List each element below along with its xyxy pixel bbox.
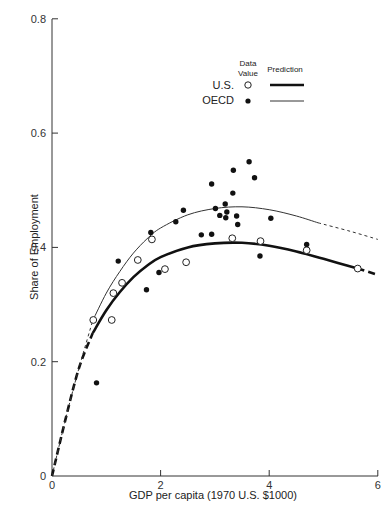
oecd-data-point [304,242,309,247]
oecd-data-point [94,380,99,385]
oecd-data-point [230,190,235,195]
oecd-data-point [252,175,257,180]
us-data-point [354,265,361,272]
oecd-data-point [257,253,262,258]
oecd-data-point [209,232,214,237]
legend: Data Value Prediction U.S. OECD [202,59,304,106]
oecd-data-point [213,206,218,211]
legend-header-data-line1: Data [240,59,257,68]
us-data-point [183,259,190,266]
oecd-data-point [235,222,240,227]
us-data-point [149,236,156,243]
oecd-data-point [231,168,236,173]
chart: 00.20.40.60.8 0246 Share of Employment G… [0,0,391,515]
legend-header-data-line2: Value [238,69,258,78]
y-tick-label: 0.2 [31,356,46,368]
prediction-lines [52,207,378,476]
us-prediction-line [93,243,358,334]
x-axis-title: GDP per capita (1970 U.S. $1000) [129,489,297,501]
us-data-point [119,279,126,286]
oecd-data-point [268,216,273,221]
data-points [90,159,361,386]
oecd-data-point [199,232,204,237]
us-data-point [110,290,117,297]
oecd-data-point [223,201,228,206]
y-axis-title: Share of Employment [28,194,40,300]
oecd-data-point [246,159,251,164]
us-data-point [303,247,310,254]
y-tick-label: 0.6 [31,127,46,139]
x-tick-label: 6 [375,479,381,491]
us-data-point [162,266,169,273]
oecd-data-point [148,230,153,235]
us-data-point [229,235,236,242]
oecd-data-point [223,215,228,220]
us-data-point [90,317,97,324]
legend-header-prediction: Prediction [267,65,303,74]
legend-label-us: U.S. [213,79,234,91]
legend-filled-circle-icon [245,98,250,103]
oecd-data-point [173,219,178,224]
oecd-data-point [209,181,214,186]
oecd-data-point [181,208,186,213]
us-data-point [134,257,141,264]
oecd-data-point [156,270,161,275]
us-prediction-extrapolation [52,333,93,476]
oecd-prediction-extrapolation [318,223,378,240]
oecd-prediction-line [93,207,318,321]
oecd-data-point [144,287,149,292]
oecd-data-point [116,258,121,263]
oecd-data-point [224,209,229,214]
legend-label-oecd: OECD [202,94,234,106]
oecd-data-point [234,213,239,218]
x-tick-label: 0 [49,479,55,491]
oecd-data-point [217,213,222,218]
caption-fragment [10,503,385,515]
x-ticks: 0246 [49,470,381,491]
legend-open-circle-icon [245,82,251,88]
us-data-point [108,317,115,324]
us-data-point [257,238,264,245]
y-tick-label: 0 [40,470,46,482]
y-tick-label: 0.8 [31,13,46,25]
